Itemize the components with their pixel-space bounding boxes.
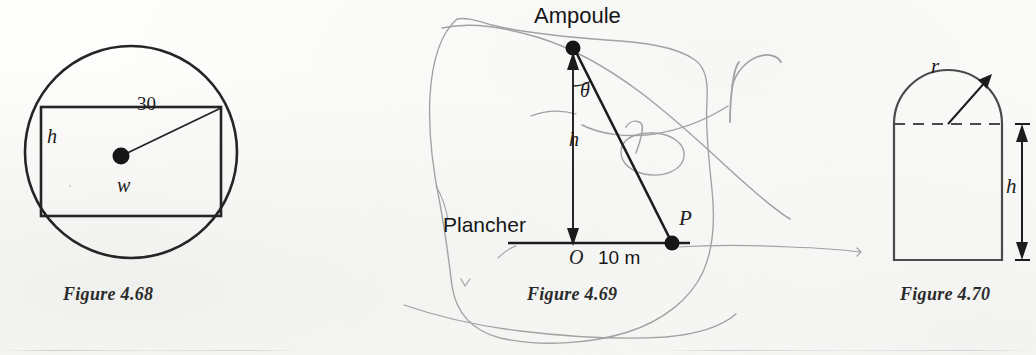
pencil-sweep-curve-upper: [442, 25, 790, 219]
pencil-tick-small: [498, 246, 516, 258]
pencil-wave-bottom: [404, 305, 736, 338]
pencil-arc-left: [531, 111, 576, 116]
pencil-baseline-right: [676, 246, 860, 253]
figure-4-69-geometry: [508, 41, 690, 251]
fig469-height-label: h: [569, 128, 579, 151]
window-rectangle: [894, 124, 1002, 260]
fig468-width-label: w: [117, 174, 130, 197]
fig469-origin-label: O: [569, 246, 583, 269]
figure-4-70-caption: Figure 4.70: [900, 284, 990, 305]
circle-centre-dot: [113, 148, 130, 165]
figure-4-69-caption: Figure 4.69: [527, 284, 617, 305]
scan-speck: [69, 185, 71, 187]
pencil-r-glyph-small: [626, 121, 642, 153]
radius-line: [121, 108, 221, 156]
scanned-figure-page: 30 h w Figure 4.68 Ampoule θ h Plancher …: [0, 0, 1036, 355]
figure-4-70-geometry: [894, 70, 1030, 260]
fig469-angle-theta-label: θ: [580, 79, 590, 102]
fig468-height-label: h: [47, 125, 57, 148]
fig469-floor-label: Plancher: [443, 213, 526, 237]
pencil-r-stem-large: [730, 62, 739, 122]
fig470-height-label: h: [1006, 174, 1017, 199]
figure-4-68-caption: Figure 4.68: [63, 284, 153, 305]
pencil-circle-around-r: [621, 133, 684, 175]
figure-4-69-pencil-annotations: [404, 18, 861, 343]
dimension-arrow-head-bottom: [1016, 242, 1028, 260]
pencil-r-shoulder-large: [732, 55, 781, 86]
fig470-radius-label: r: [931, 54, 939, 79]
fig468-radius-value-label: 30: [137, 93, 156, 115]
inscribed-rectangle: [41, 107, 221, 216]
bulb-point-dot: [566, 41, 581, 56]
figure-4-68-geometry: [25, 46, 237, 258]
figure-4-68-drawing: [0, 0, 1036, 355]
fig469-point-p-label: P: [679, 206, 692, 231]
fig469-bulb-label: Ampoule: [534, 3, 621, 29]
fig469-distance-label: 10 m: [598, 247, 640, 269]
point-p-dot: [665, 236, 680, 251]
dimension-arrow-head-top: [1016, 124, 1028, 142]
pencil-tick-left: [461, 279, 470, 286]
radius-arrow-shaft: [948, 80, 987, 124]
